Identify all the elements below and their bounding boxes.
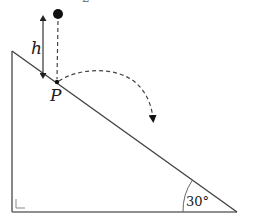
incline-triangle [12, 51, 237, 212]
point-p-label: P [50, 87, 61, 104]
incline-slope [12, 51, 237, 212]
ball-icon [53, 9, 63, 19]
diagram-svg [0, 0, 260, 222]
right-angle-marker-icon [16, 199, 25, 208]
angle-label: 30° [186, 195, 209, 208]
height-label: h [31, 40, 42, 57]
incline-diagram: 2 h P 30° [0, 0, 260, 222]
point-p-marker [55, 80, 59, 84]
top-fragment-label: 2 [82, 0, 90, 4]
drop-path [57, 21, 58, 79]
